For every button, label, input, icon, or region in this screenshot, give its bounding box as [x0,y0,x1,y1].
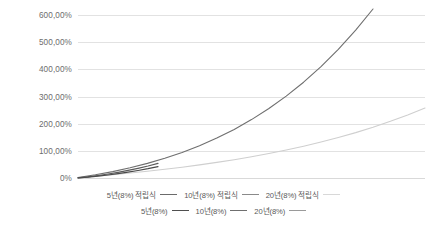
legend-label-10y: 10년(8%) [196,205,227,216]
legend-swatch-icon-5y-installment [160,194,177,196]
y-axis-labels: 600,00% 500,00% 400,00% 300,00% 200,00% … [0,0,76,190]
legend-swatch-icon-5y [172,210,189,212]
legend-label-10y-installment: 10년(8%) 적립식 [184,189,238,200]
legend-swatch-icon-10y-installment [242,194,259,196]
y-tick-400: 400,00% [39,65,72,74]
y-tick-100: 100,00% [39,146,72,155]
legend-item-5y[interactable]: 5년(8%) [141,205,189,216]
legend-swatch-icon-20y-installment [323,194,340,196]
legend-item-20y[interactable]: 20년(8%) [254,205,306,216]
y-tick-200: 200,00% [39,119,72,128]
legend-row-lumpsum: 5년(8%) 10년(8%) 20년(8%) [0,204,447,217]
chart-container: 600,00% 500,00% 400,00% 300,00% 200,00% … [0,0,447,225]
legend-item-10y[interactable]: 10년(8%) [196,205,248,216]
series-line-20y [78,9,373,178]
y-tick-500: 500,00% [39,38,72,47]
y-tick-300: 300,00% [39,92,72,101]
legend-label-20y: 20년(8%) [254,205,285,216]
legend-item-5y-installment[interactable]: 5년(8%) 적립식 [107,189,177,200]
plot-area: 600,00% 500,00% 400,00% 300,00% 200,00% … [0,0,447,190]
chart-legend: 5년(8%) 적립식 10년(8%) 적립식 20년(8%) 적립식 5년(8%… [0,186,447,225]
legend-item-10y-installment[interactable]: 10년(8%) 적립식 [184,189,259,200]
legend-swatch-icon-20y [289,210,306,212]
legend-label-5y-installment: 5년(8%) 적립식 [107,189,156,200]
legend-label-5y: 5년(8%) [141,205,168,216]
legend-label-20y-installment: 20년(8%) 적립식 [266,189,320,200]
series-line-20y-installment [78,108,425,178]
legend-item-20y-installment[interactable]: 20년(8%) 적립식 [266,189,341,200]
series-lines [78,0,425,190]
legend-swatch-icon-10y [230,210,247,212]
legend-row-installment: 5년(8%) 적립식 10년(8%) 적립식 20년(8%) 적립식 [0,188,447,201]
y-tick-0: 0% [60,174,72,183]
y-tick-600: 600,00% [39,11,72,20]
